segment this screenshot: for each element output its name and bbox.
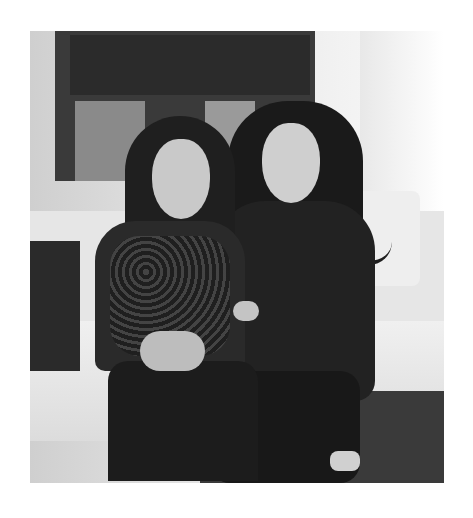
left-woman-legs — [108, 361, 258, 481]
left-woman-hands — [140, 331, 205, 371]
window-shade — [70, 35, 310, 95]
left-woman-face — [152, 139, 210, 219]
dark-pillow — [30, 241, 80, 371]
shoe — [330, 451, 360, 471]
right-woman-face — [262, 123, 320, 203]
photo — [30, 31, 444, 483]
right-woman-hand — [233, 301, 259, 321]
